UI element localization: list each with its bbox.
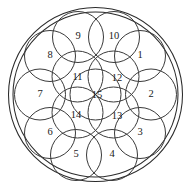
circle-label-13: 13 — [112, 110, 123, 121]
circle-label-15: 15 — [92, 89, 103, 100]
circle-label-14: 14 — [71, 109, 82, 120]
circle-label-7: 7 — [37, 88, 42, 99]
circle-label-8: 8 — [47, 49, 52, 60]
circle-label-11: 11 — [72, 71, 82, 82]
circle-label-5: 5 — [73, 148, 78, 159]
circle-label-2: 2 — [148, 88, 153, 99]
circle-label-9: 9 — [75, 30, 80, 41]
circle-packing-figure: 1 2 3 4 5 6 7 8 9 10 11 12 13 14 15 — [0, 0, 191, 189]
circle-label-4: 4 — [109, 148, 115, 159]
packing-diagram-svg: 1 2 3 4 5 6 7 8 9 10 11 12 13 14 15 — [0, 0, 191, 189]
circle-label-1: 1 — [137, 49, 142, 60]
circle-label-10: 10 — [109, 30, 120, 41]
circle-label-6: 6 — [47, 126, 52, 137]
circle-label-12: 12 — [112, 72, 123, 83]
circle-label-3: 3 — [137, 126, 142, 137]
